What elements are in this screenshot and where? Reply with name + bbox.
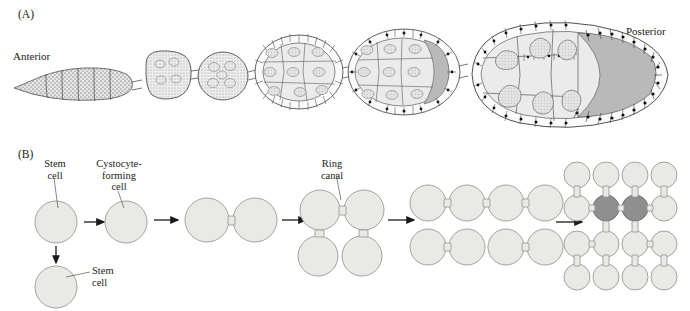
panel-a-drawing <box>0 0 690 150</box>
figure-root: (A) (B) Anterior Posterior <box>0 0 690 311</box>
egg-chamber-3 <box>255 34 343 110</box>
stage-daughter-stem-cell <box>35 266 77 308</box>
stage-2-cell <box>185 198 277 242</box>
stalk-1 <box>132 80 142 90</box>
stage-1-cell <box>35 201 77 243</box>
stage-16-cell <box>564 162 677 290</box>
germarium <box>14 68 132 101</box>
stage-cystocyte-forming-cell <box>105 201 147 243</box>
pro-oocyte-2 <box>622 195 648 221</box>
egg-chamber-1 <box>146 51 191 99</box>
stage-4-cell <box>298 190 384 276</box>
panel-b-drawing <box>0 150 690 311</box>
stage-8-cell <box>410 185 563 265</box>
egg-chamber-4 <box>348 29 460 115</box>
egg-chamber-5 <box>472 20 668 128</box>
pro-oocyte-1 <box>593 195 619 221</box>
egg-chamber-2 <box>198 52 248 100</box>
leader-ring-canal <box>336 174 341 200</box>
